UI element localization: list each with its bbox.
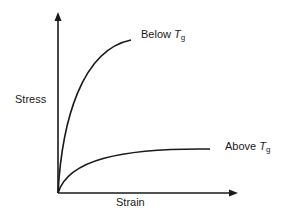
x-axis-arrow-icon <box>229 190 238 197</box>
label-above-tg-var: T <box>259 140 266 152</box>
label-below-tg: Below Tg <box>141 29 185 42</box>
label-above-tg-sub: g <box>266 145 270 154</box>
y-axis-arrow-icon <box>55 12 62 21</box>
x-axis-label: Strain <box>116 197 145 208</box>
label-above-tg: Above Tg <box>225 141 270 154</box>
y-axis-label: Stress <box>15 94 46 105</box>
label-below-tg-var: T <box>174 28 181 40</box>
label-above-tg-prefix: Above <box>225 140 259 152</box>
curve-below-tg <box>58 40 131 193</box>
curve-above-tg <box>58 149 210 193</box>
label-below-tg-sub: g <box>181 33 185 42</box>
label-below-tg-prefix: Below <box>141 28 174 40</box>
